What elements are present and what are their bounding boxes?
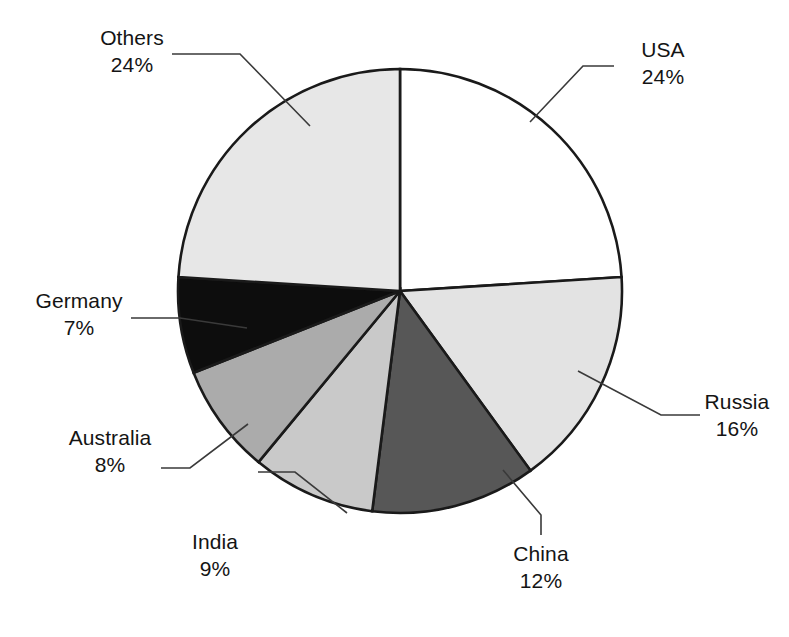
callout-germany: Germany 7% [27, 287, 131, 342]
pie-slices [178, 69, 622, 513]
callout-india: India 9% [172, 528, 258, 583]
callout-others-label: Others [72, 24, 192, 51]
callout-usa-value: 24% [608, 63, 718, 90]
callout-india-label: India [172, 528, 258, 555]
callout-australia-label: Australia [58, 424, 162, 451]
callout-australia: Australia 8% [58, 424, 162, 479]
callout-usa: USA 24% [608, 36, 718, 91]
callout-russia-value: 16% [690, 415, 784, 442]
pie-slice-others[interactable] [178, 69, 400, 291]
pie-chart: Others 24% USA 24% Russia 16% China 12% … [0, 0, 789, 637]
callout-germany-value: 7% [27, 314, 131, 341]
callout-russia-label: Russia [690, 388, 784, 415]
callout-others-value: 24% [72, 51, 192, 78]
callout-russia: Russia 16% [690, 388, 784, 443]
callout-others: Others 24% [72, 24, 192, 79]
callout-china-value: 12% [489, 567, 593, 594]
callout-india-value: 9% [172, 555, 258, 582]
callout-germany-label: Germany [27, 287, 131, 314]
callout-usa-label: USA [608, 36, 718, 63]
callout-china-label: China [489, 540, 593, 567]
callout-china: China 12% [489, 540, 593, 595]
pie-slice-usa[interactable] [400, 69, 622, 291]
callout-australia-value: 8% [58, 451, 162, 478]
leader-line-usa [530, 66, 614, 122]
